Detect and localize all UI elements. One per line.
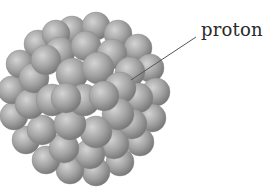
nucleus xyxy=(0,12,170,186)
proton-label: proton xyxy=(201,19,263,40)
nucleon-sphere xyxy=(27,115,57,145)
nucleon-sphere xyxy=(89,81,119,111)
nucleon-sphere xyxy=(51,83,81,113)
